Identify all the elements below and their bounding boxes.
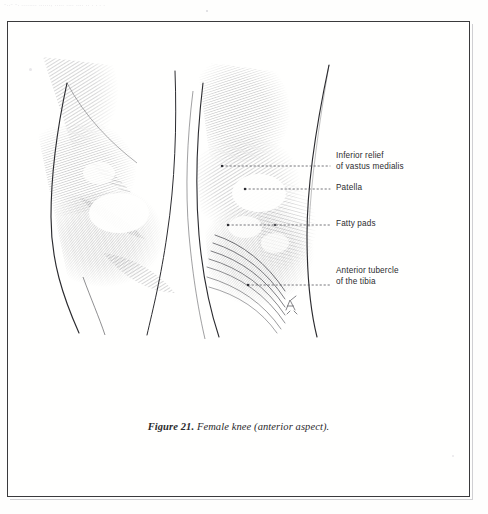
callout-line-1: Patella [336, 183, 362, 192]
callout-line-1: Anterior tubercle [336, 266, 399, 275]
left-leg-drawing [37, 57, 183, 335]
callout-line-1: Fatty pads [336, 219, 376, 228]
callout-label-patella: Patella [336, 183, 362, 194]
callout-line-2: of vastus medialis [336, 162, 404, 171]
scanned-book-page: -..- -. ........ ......, ..... .... ....… [0, 0, 488, 514]
figure-caption-text: Female knee (anterior aspect). [194, 421, 329, 432]
callout-label-inferior-relief-of-vastus-medialis: Inferior reliefof vastus medialis [336, 151, 404, 172]
callout-label-fatty-pads: Fatty pads [336, 219, 376, 230]
callout-label-anterior-tubercle-of-the-tibia: Anterior tubercleof the tibia [336, 266, 399, 287]
right-leg-drawing [187, 61, 329, 339]
callout-line-1: Inferior relief [336, 151, 384, 160]
figure-caption-number: Figure 21. [148, 421, 195, 432]
scan-speck [206, 10, 208, 12]
figure-caption: Figure 21. Female knee (anterior aspect)… [7, 421, 470, 432]
scan-bleed-text: -..- -. ........ ......, ..... .... ....… [4, 0, 424, 9]
callout-line-2: of the tibia [336, 277, 376, 286]
